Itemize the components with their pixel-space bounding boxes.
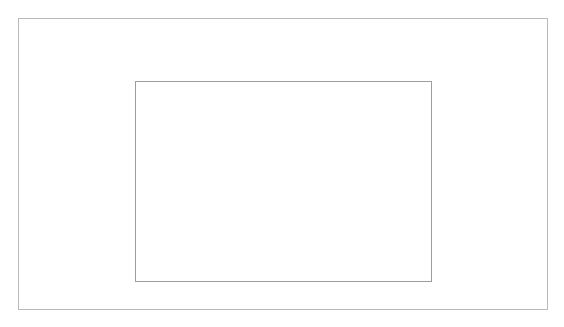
figure-border (18, 18, 548, 310)
y-axis-tick-labels (71, 19, 131, 327)
plot-area (135, 81, 432, 282)
